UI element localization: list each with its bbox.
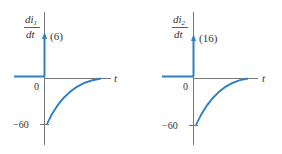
ylabel-num: di (25, 13, 34, 25)
svg-text:di1: di1 (25, 13, 37, 27)
impulse-arrow-icon (191, 34, 196, 41)
ylabel-den: dt (174, 28, 184, 40)
ylabel-num: di (173, 13, 182, 25)
plots-svg: di1 dt (6) 0 −60 t di2 dt (16) 0 −60 t (0, 0, 282, 154)
zero-label: 0 (183, 81, 188, 92)
exponential-curve (196, 79, 248, 126)
impulse-arrow-icon (42, 32, 47, 39)
x-axis-label: t (262, 72, 266, 84)
panel-di2: di2 dt (16) 0 −60 t (162, 12, 266, 145)
ylabel-sub: 2 (182, 19, 186, 27)
neg60-label: −60 (162, 120, 178, 131)
panel-di1: di1 dt (6) 0 −60 t (13, 12, 118, 145)
impulse-label: (6) (50, 30, 63, 43)
x-axis-label: t (114, 72, 118, 84)
svg-text:di2: di2 (173, 13, 186, 27)
exponential-curve (47, 79, 101, 125)
ylabel-sub: 1 (34, 19, 38, 27)
ylabel-den: dt (26, 28, 36, 40)
neg60-label: −60 (13, 119, 29, 130)
zero-label: 0 (34, 81, 39, 92)
derivative-plots-figure: di1 dt (6) 0 −60 t di2 dt (16) 0 −60 t (0, 0, 282, 154)
impulse-label: (16) (199, 32, 218, 45)
